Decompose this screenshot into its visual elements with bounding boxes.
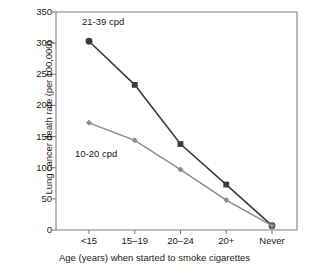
data-point bbox=[86, 38, 93, 45]
plot-area bbox=[0, 0, 309, 273]
y-axis-ticks bbox=[52, 12, 56, 230]
series-1 bbox=[86, 38, 276, 229]
chart-figure: Lung cancer death rate (per 100,000) 050… bbox=[0, 0, 309, 273]
data-point bbox=[223, 182, 229, 188]
data-point bbox=[178, 141, 184, 147]
x-tick-label: Never bbox=[245, 235, 299, 246]
data-point bbox=[86, 120, 92, 126]
series-2 bbox=[86, 120, 275, 229]
series-label-10-20-cpd: 10-20 cpd bbox=[75, 148, 117, 159]
x-axis-title: Age (years) when started to smoke cigare… bbox=[0, 252, 309, 263]
x-axis-ticks bbox=[89, 230, 272, 234]
data-point bbox=[132, 82, 138, 88]
series-label-21-39-cpd: 21-39 cpd bbox=[82, 16, 124, 27]
